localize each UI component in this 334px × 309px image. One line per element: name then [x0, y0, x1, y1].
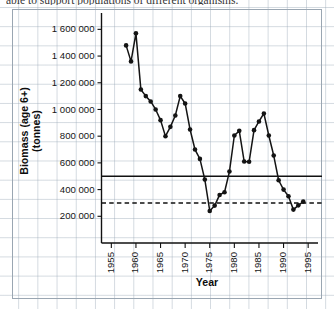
x-tick-label: 1955 — [105, 252, 116, 273]
y-tick-label: 1 200 000 — [52, 77, 95, 88]
data-point — [207, 209, 212, 214]
x-tick-label: 1975 — [203, 252, 214, 273]
data-point — [173, 113, 178, 118]
y-axis-title-line2: (tonnes) — [30, 110, 42, 152]
data-point — [301, 199, 306, 204]
y-tick-label: 1 400 000 — [52, 50, 95, 61]
data-point — [232, 133, 237, 138]
data-point — [129, 59, 134, 64]
x-tick-label: 1970 — [179, 252, 190, 273]
data-point — [139, 87, 144, 92]
data-point — [242, 159, 247, 164]
y-axis-title-line1: Biomass (age 6+) — [18, 87, 30, 174]
data-point — [148, 99, 153, 104]
y-tick-label: 800 000 — [60, 130, 95, 141]
x-tick-label: 1960 — [129, 252, 140, 273]
data-point — [252, 128, 257, 133]
data-point — [134, 31, 139, 36]
y-tick-label: 1 600 000 — [52, 23, 95, 34]
biomass-line-chart: 200 000400 000600 000800 0001 000 0001 2… — [0, 0, 334, 309]
x-tick-label: 1995 — [302, 252, 313, 273]
x-axis-tick-marks — [111, 243, 308, 248]
x-tick-label: 1965 — [154, 252, 165, 273]
data-point — [193, 147, 198, 152]
data-point — [217, 193, 222, 198]
x-axis-tick-labels: 195519601965197019751980198519901995 — [105, 252, 313, 273]
data-point — [291, 207, 296, 212]
data-point — [227, 169, 232, 174]
data-point — [267, 133, 272, 138]
data-point — [183, 101, 188, 106]
data-point — [271, 153, 276, 158]
data-point — [257, 119, 262, 124]
data-point — [276, 178, 281, 183]
data-point — [296, 203, 301, 208]
data-point — [198, 157, 203, 162]
x-tick-label: 1990 — [277, 252, 288, 273]
data-point — [153, 107, 158, 112]
y-axis-tick-labels: 200 000400 000600 000800 0001 000 0001 2… — [52, 23, 95, 221]
biomass-series-points — [124, 31, 306, 213]
data-point — [203, 177, 208, 182]
data-point — [286, 194, 291, 199]
data-point — [163, 134, 168, 139]
data-point — [212, 203, 217, 208]
x-tick-label: 1980 — [228, 252, 239, 273]
x-tick-label: 1985 — [252, 252, 263, 273]
y-tick-label: 200 000 — [60, 210, 95, 221]
x-axis-title: Year — [196, 276, 218, 288]
data-point — [168, 125, 173, 130]
data-point — [124, 43, 129, 48]
data-point — [247, 160, 252, 165]
biomass-series-line — [126, 33, 303, 211]
data-point — [178, 94, 183, 99]
data-point — [222, 190, 227, 195]
y-tick-label: 1 000 000 — [52, 104, 95, 115]
data-point — [237, 129, 242, 134]
y-tick-label: 600 000 — [60, 157, 95, 168]
y-tick-label: 400 000 — [60, 184, 95, 195]
data-point — [281, 187, 286, 192]
data-point — [262, 111, 267, 116]
data-point — [158, 118, 163, 123]
data-point — [143, 94, 148, 99]
data-point — [188, 127, 193, 132]
